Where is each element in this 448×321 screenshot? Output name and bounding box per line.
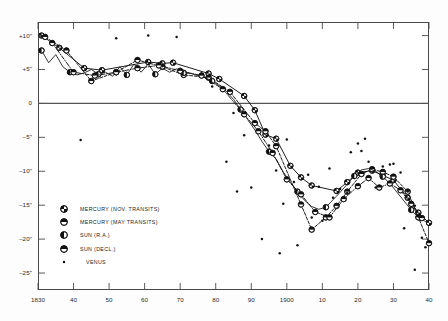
y-axis-tick-label: –25" [2,269,32,276]
x-axis-tick-label: 60 [128,296,162,303]
plot-canvas [0,0,448,321]
legend-label: MERCURY (MAY TRANSITS) [80,219,158,225]
legend-item-mercury-nov: MERCURY (NOV. TRANSITS) [58,202,208,215]
y-axis-tick-label: 0 [2,99,32,106]
x-axis-tick-label: 50 [92,296,126,303]
legend-item-mercury-may: MERCURY (MAY TRANSITS) [58,215,208,228]
x-axis-tick-label: 40 [412,296,446,303]
y-axis-tick-label: –10" [2,167,32,174]
circle-quartered-icon [58,203,70,215]
circle-left-filled-icon [58,229,70,241]
legend-label: MERCURY (NOV. TRANSITS) [80,206,160,212]
legend-label: SUN (R.A.) [80,232,110,238]
legend: MERCURY (NOV. TRANSITS) MERCURY (MAY TRA… [58,202,208,269]
y-axis-tick-label: +5" [2,65,32,72]
x-axis-tick-label: 40 [57,296,91,303]
circle-halved-horizontal-icon [58,216,70,228]
legend-label: SUN (DECL.) [80,246,116,252]
x-axis-tick-label: 90 [234,296,268,303]
x-axis-tick-label: 30 [376,296,410,303]
x-axis-tick-label: 70 [163,296,197,303]
legend-item-sun-decl: SUN (DECL.) [58,242,208,255]
y-axis-tick-label: –15" [2,201,32,208]
x-axis-tick-label: 1830 [21,296,55,303]
legend-item-venus: VENUS [58,256,208,269]
y-axis-tick-label: –20" [2,235,32,242]
y-axis-tick-label: –5" [2,133,32,140]
x-axis-tick-label: 80 [199,296,233,303]
legend-item-sun-ra: SUN (R.A.) [58,229,208,242]
x-axis-tick-label: 20 [341,296,375,303]
legend-label: VENUS [86,259,106,265]
circle-halved-horizontal-icon [58,243,70,255]
astronomy-residuals-figure: +10"+5"0–5"–10"–15"–20"–25" 183040506070… [0,0,448,321]
x-axis-tick-label: 1900 [270,296,304,303]
y-axis-tick-label: +10" [2,32,32,39]
x-axis-tick-label: 10 [305,296,339,303]
dot-small-icon [58,256,70,268]
